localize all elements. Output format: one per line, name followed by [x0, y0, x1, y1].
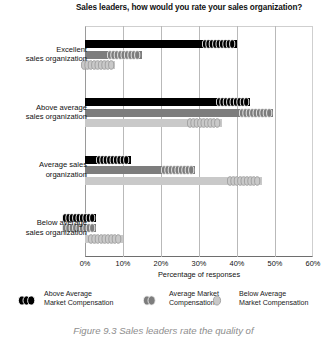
category-label-line: Below average — [0, 218, 87, 228]
category-label-line: Average sales — [0, 160, 87, 170]
bar — [85, 61, 115, 69]
bar-group — [85, 84, 313, 142]
category-label-line: Above average — [0, 103, 87, 113]
bar-group — [85, 142, 313, 200]
bar — [85, 235, 123, 243]
bar — [85, 166, 195, 174]
x-tick-label: 40% — [230, 259, 245, 268]
coin-cluster-icon — [96, 155, 131, 165]
legend-item[interactable]: Above Average Market Compensation — [18, 290, 113, 308]
coin-cluster-icon — [216, 97, 251, 107]
coin-cluster-icon — [161, 165, 196, 175]
coin-cluster-icon — [88, 234, 123, 244]
x-tick-label: 10% — [116, 259, 131, 268]
category-label: Below averagesales organization — [0, 218, 87, 237]
legend-item[interactable]: Average Market Compensation — [143, 290, 219, 308]
legend-label: Average Market Compensation — [169, 290, 219, 308]
category-label-line: sales organization — [0, 112, 87, 122]
legend-coin-icon — [213, 293, 235, 305]
coin-cluster-icon — [239, 108, 274, 118]
bar — [85, 98, 250, 106]
bar — [85, 156, 131, 164]
bar — [85, 119, 222, 127]
x-tick-label: 20% — [154, 259, 169, 268]
bar-group — [85, 26, 313, 84]
bar — [85, 177, 262, 185]
legend-coin-icon — [143, 293, 165, 305]
x-axis-title: Percentage of responses — [85, 270, 313, 279]
figure-caption: Figure 9.3 Sales leaders rate the qualit… — [0, 325, 327, 336]
category-label: Above averagesales organization — [0, 103, 87, 122]
category-label: Average salesorganization — [0, 160, 87, 179]
coin-cluster-icon — [227, 176, 262, 186]
chart-legend: Above Average Market CompensationAverage… — [0, 290, 327, 314]
category-label-line: sales organization — [0, 228, 87, 238]
chart-title: Sales leaders, how would you rate your s… — [76, 3, 324, 13]
bar — [85, 40, 237, 48]
x-tick-label: 50% — [268, 259, 283, 268]
category-label: Excellentsales organization — [0, 45, 87, 64]
category-label-line: Excellent — [0, 45, 87, 55]
legend-coin-icon — [18, 293, 40, 305]
legend-label: Above Average Market Compensation — [44, 290, 113, 308]
figure-container: Sales leaders, how would you rate your s… — [0, 0, 327, 339]
legend-label: Below Average Market Compensation — [239, 290, 308, 308]
bar — [85, 109, 273, 117]
plot-area — [85, 26, 313, 257]
category-label-line: organization — [0, 170, 87, 180]
x-tick-label: 60% — [306, 259, 321, 268]
bar — [85, 51, 142, 59]
x-tick-label: 30% — [192, 259, 207, 268]
x-tick-label: 0% — [80, 259, 91, 268]
coin-cluster-icon — [187, 118, 222, 128]
category-label-line: sales organization — [0, 54, 87, 64]
bar-group — [85, 199, 313, 257]
coin-cluster-icon — [107, 50, 142, 60]
coin-cluster-icon — [202, 39, 237, 49]
legend-item[interactable]: Below Average Market Compensation — [213, 290, 308, 308]
